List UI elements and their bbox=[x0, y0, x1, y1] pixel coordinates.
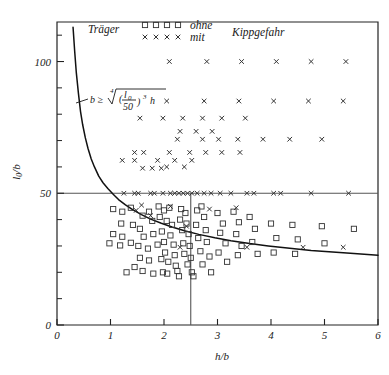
annotation-numerator: l bbox=[124, 89, 127, 100]
annotation-denominator: 50 bbox=[123, 101, 133, 112]
x-tick-label: 6 bbox=[375, 329, 381, 341]
y-axis-label-group: l0/b bbox=[10, 164, 24, 180]
annotation-exponent: 3 bbox=[142, 93, 147, 101]
x-tick-label: 1 bbox=[108, 329, 114, 341]
legend-label-mit: mit bbox=[190, 31, 206, 43]
legend-label-ohne: ohne bbox=[190, 19, 212, 31]
x-tick-label: 2 bbox=[161, 329, 167, 341]
y-axis-label: l0/b bbox=[10, 164, 24, 180]
y-tick-label: 100 bbox=[35, 56, 52, 68]
annotation-trailing-var: h bbox=[150, 95, 155, 106]
x-axis-label: h/b bbox=[215, 350, 230, 362]
x-tick-label: 3 bbox=[214, 329, 221, 341]
annotation-lhs: b ≥ bbox=[90, 94, 104, 105]
chart-figure: 0123456050100 h/b l0/b Träger ohne mit K… bbox=[0, 0, 389, 375]
annotation-close-paren: ) bbox=[136, 96, 141, 108]
x-tick-label: 4 bbox=[268, 329, 274, 341]
legend-prefix-label: Träger bbox=[88, 23, 120, 36]
legend-suffix-label: Kippgefahr bbox=[231, 26, 285, 39]
y-tick-label: 0 bbox=[46, 319, 52, 331]
annotation-root-index: 4 bbox=[110, 87, 114, 95]
plot-background bbox=[0, 0, 389, 375]
x-tick-label: 0 bbox=[54, 329, 60, 341]
x-tick-label: 5 bbox=[322, 329, 328, 341]
scatter-plot-svg: 0123456050100 h/b l0/b Träger ohne mit K… bbox=[0, 0, 389, 375]
y-tick-label: 50 bbox=[40, 187, 52, 199]
